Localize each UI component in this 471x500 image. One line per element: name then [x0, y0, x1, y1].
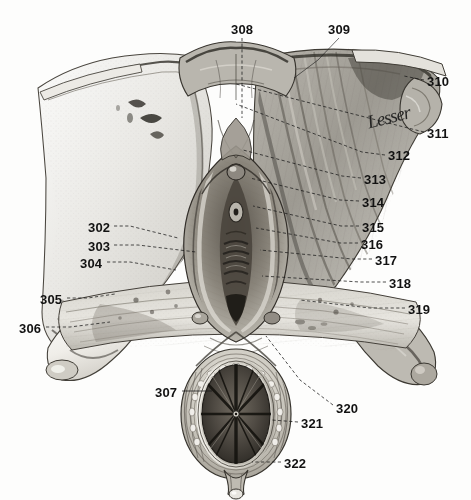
label-307: 307: [155, 386, 177, 399]
label-306: 306: [19, 322, 41, 335]
label-315: 315: [362, 221, 384, 234]
label-308: 308: [231, 23, 253, 36]
label-319: 319: [408, 303, 430, 316]
label-320: 320: [336, 402, 358, 415]
label-310: 310: [427, 75, 449, 88]
anatomical-plate: Lesser 302 303 304 305 306 307 308 309 3…: [0, 0, 471, 500]
label-313: 313: [364, 173, 386, 186]
label-321: 321: [301, 417, 323, 430]
label-314: 314: [362, 196, 384, 209]
label-305: 305: [40, 293, 62, 306]
label-304: 304: [80, 257, 102, 270]
anatomical-illustration: [0, 0, 471, 500]
label-302: 302: [88, 221, 110, 234]
label-316: 316: [361, 238, 383, 251]
label-303: 303: [88, 240, 110, 253]
label-322: 322: [284, 457, 306, 470]
label-309: 309: [328, 23, 350, 36]
label-318: 318: [389, 277, 411, 290]
label-312: 312: [388, 149, 410, 162]
label-317: 317: [375, 254, 397, 267]
label-311: 311: [427, 127, 449, 140]
